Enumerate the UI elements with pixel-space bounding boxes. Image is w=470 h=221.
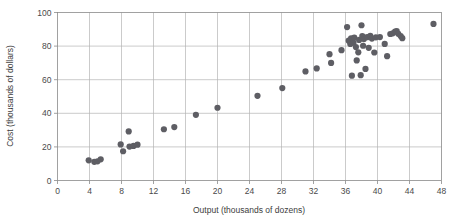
scatter-plot-figure: 04812162024283236404448 020406080100 Out… xyxy=(0,0,470,221)
scatter-point xyxy=(193,112,199,118)
scatter-point xyxy=(134,142,140,148)
x-tick-label: 0 xyxy=(55,186,60,196)
scatter-point xyxy=(254,93,260,99)
scatter-point xyxy=(358,22,364,28)
scatter-point xyxy=(366,45,372,51)
x-tick-label: 44 xyxy=(405,186,415,196)
x-tick-label: 12 xyxy=(149,186,159,196)
scatter-point xyxy=(338,47,344,53)
scatter-point xyxy=(430,21,436,27)
x-axis-ticks: 04812162024283236404448 xyxy=(55,181,446,197)
scatter-point xyxy=(171,124,177,130)
scatter-point xyxy=(326,51,332,57)
scatter-point xyxy=(120,148,126,154)
x-tick-label: 4 xyxy=(87,186,92,196)
scatter-point xyxy=(328,60,334,66)
scatter-point xyxy=(399,35,405,41)
y-tick-label: 20 xyxy=(42,142,52,152)
scatter-point xyxy=(126,128,132,134)
scatter-point xyxy=(161,126,167,132)
x-tick-label: 36 xyxy=(341,186,351,196)
chart-canvas: 04812162024283236404448 020406080100 Out… xyxy=(0,0,470,221)
scatter-point xyxy=(358,72,364,78)
y-axis-label: Cost (thousands of dollars) xyxy=(5,45,15,147)
scatter-point xyxy=(86,157,92,163)
scatter-point xyxy=(382,41,388,47)
x-tick-label: 48 xyxy=(437,186,447,196)
scatter-point xyxy=(314,65,320,71)
x-tick-label: 16 xyxy=(181,186,191,196)
grid-lines xyxy=(58,13,442,181)
scatter-point xyxy=(354,57,360,63)
scatter-point xyxy=(118,141,124,147)
scatter-point xyxy=(377,34,383,40)
y-tick-label: 40 xyxy=(42,108,52,118)
scatter-point xyxy=(98,156,104,162)
y-tick-label: 60 xyxy=(42,75,52,85)
x-tick-label: 40 xyxy=(373,186,383,196)
x-tick-label: 28 xyxy=(277,186,287,196)
y-tick-label: 100 xyxy=(37,8,51,18)
scatter-point xyxy=(302,68,308,74)
x-tick-label: 32 xyxy=(309,186,319,196)
scatter-point xyxy=(279,85,285,91)
y-tick-label: 80 xyxy=(42,41,52,51)
scatter-point xyxy=(384,53,390,59)
scatter-point xyxy=(349,73,355,79)
x-tick-label: 8 xyxy=(119,186,124,196)
x-tick-label: 20 xyxy=(213,186,223,196)
y-axis-ticks: 020406080100 xyxy=(37,8,57,186)
data-points xyxy=(86,21,437,165)
scatter-point xyxy=(214,105,220,111)
scatter-point xyxy=(360,43,366,49)
x-tick-label: 24 xyxy=(245,186,255,196)
x-axis-label: Output (thousands of dozens) xyxy=(193,205,305,215)
scatter-point xyxy=(344,24,350,30)
scatter-point xyxy=(362,66,368,72)
scatter-point xyxy=(355,49,361,55)
y-tick-label: 0 xyxy=(47,176,52,186)
scatter-point xyxy=(371,49,377,55)
